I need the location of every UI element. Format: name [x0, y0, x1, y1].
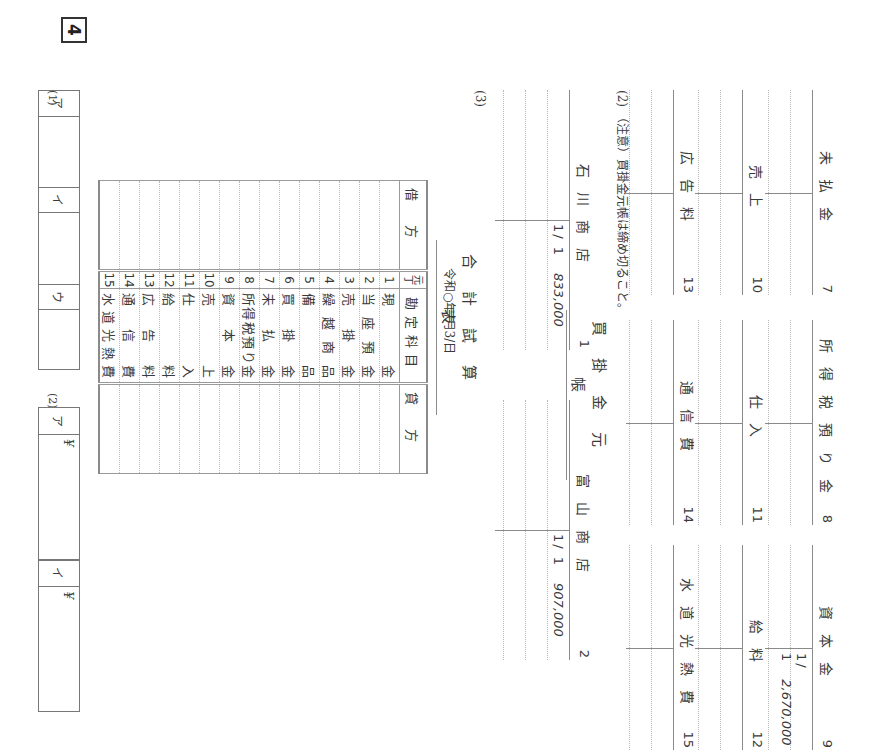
credit-cell[interactable]	[320, 383, 340, 473]
answer-field-a[interactable]: ¥	[39, 435, 79, 560]
header-ref: 元丁	[400, 271, 428, 289]
credit-cell[interactable]	[260, 383, 280, 473]
account-cell: 繰越商品	[320, 289, 340, 384]
trial-balance-date: 令和○年/月3/日	[442, 268, 459, 354]
header-debit: 借方	[400, 181, 428, 271]
debit-cell[interactable]	[120, 181, 140, 271]
credit-cell[interactable]	[120, 383, 140, 473]
ref-cell: 3	[340, 271, 360, 289]
t-account-num: 14	[681, 506, 696, 523]
t-account: 通信費14	[626, 320, 696, 525]
debit-cell[interactable]	[200, 181, 220, 271]
ledger-account-toyama: 富山商店2 1/ 1907,000	[492, 400, 592, 660]
t-account-num: 13	[681, 276, 696, 293]
table-row: 8所得税預り金	[240, 181, 260, 474]
answer-label-a: ア	[39, 91, 79, 117]
credit-cell[interactable]	[140, 383, 160, 473]
ref-cell: 10	[200, 271, 220, 289]
ledger-account-ishikawa: 石川商店1 1/ 1833,000	[492, 90, 592, 350]
t-account: 所得税預り金8	[765, 320, 835, 525]
answer-label-a: ア	[39, 408, 79, 435]
debit-cell[interactable]	[140, 181, 160, 271]
account-cell: 通信費	[120, 289, 140, 384]
answer-field-i[interactable]	[39, 213, 79, 284]
credit-cell[interactable]	[200, 383, 220, 473]
account-cell: 資本金	[220, 289, 240, 384]
debit-cell[interactable]	[240, 181, 260, 271]
account-cell: 未払金	[260, 289, 280, 384]
table-row: 12給料	[160, 181, 180, 474]
table-row: 4繰越商品	[320, 181, 340, 474]
credit-cell[interactable]	[180, 383, 200, 473]
debit-cell[interactable]	[340, 181, 360, 271]
debit-cell[interactable]	[320, 181, 340, 271]
ledger-account-name: 富山商店	[574, 400, 594, 660]
debit-cell[interactable]	[180, 181, 200, 271]
ref-cell: 1	[380, 271, 400, 289]
table-row: 10売上	[200, 181, 220, 474]
table-row: 3売掛金	[340, 181, 360, 474]
section2-label: (2)	[615, 90, 629, 107]
answer-field-u[interactable]	[39, 310, 79, 369]
credit-cell[interactable]	[360, 383, 380, 473]
t-account-name: 水道光熱費	[678, 545, 698, 750]
credit-cell[interactable]	[220, 383, 240, 473]
answer-label-i: イ	[39, 560, 79, 588]
trial-balance-table: 借方 元丁 勘定科目 貸方 1現金2当座預金3売掛金4繰越商品5備品6買掛金7未…	[98, 180, 428, 474]
t-account-num: 11	[750, 506, 765, 523]
debit-cell[interactable]	[220, 181, 240, 271]
credit-cell[interactable]	[99, 383, 120, 473]
header-credit: 貸方	[400, 383, 428, 473]
table-row: 5備品	[300, 181, 320, 474]
debit-cell[interactable]	[160, 181, 180, 271]
answer-field-a[interactable]	[39, 117, 79, 188]
debit-cell[interactable]	[300, 181, 320, 271]
debit-cell[interactable]	[260, 181, 280, 271]
section2-note-text: （注意）買掛金元帳は締め切ること。	[615, 111, 629, 315]
account-cell: 水道光熱費	[99, 289, 120, 384]
account-cell: 当座預金	[360, 289, 380, 384]
debit-cell[interactable]	[280, 181, 300, 271]
t-account-name: 売上	[747, 90, 767, 295]
t-account: 広告料13	[626, 90, 696, 295]
t-account-name: 給料	[747, 545, 767, 750]
credit-cell[interactable]	[240, 383, 260, 473]
debit-cell[interactable]	[380, 181, 400, 271]
ref-cell: 14	[120, 271, 140, 289]
ledger-account-num: 2	[577, 650, 592, 658]
t-account: 資本金91/ 12,670,000	[765, 545, 835, 750]
account-cell: 給料	[160, 289, 180, 384]
question-number-4: 4	[61, 17, 87, 43]
account-cell: 広告料	[140, 289, 160, 384]
t-account-num: 12	[750, 731, 765, 748]
account-cell: 売上	[200, 289, 220, 384]
ref-cell: 12	[160, 271, 180, 289]
account-cell: 現金	[380, 289, 400, 384]
credit-cell[interactable]	[160, 383, 180, 473]
answer-field-i[interactable]: ¥	[39, 587, 79, 711]
table-row: 1現金	[380, 181, 400, 474]
credit-cell[interactable]	[300, 383, 320, 473]
debit-cell[interactable]	[360, 181, 380, 271]
ledger-entry: 1/ 1907,000	[551, 534, 566, 637]
credit-cell[interactable]	[340, 383, 360, 473]
t-account: 水道光熱費15	[626, 545, 696, 750]
t-account: 未払金7	[765, 90, 835, 295]
credit-cell[interactable]	[280, 383, 300, 473]
table-row: 6買掛金	[280, 181, 300, 474]
debit-cell[interactable]	[99, 181, 120, 271]
answer-sheet-page: 未払金7所得税預り金8資本金91/ 12,670,000売上10仕入11給料12…	[0, 0, 877, 754]
t-account-name: 通信費	[678, 320, 698, 525]
ref-cell: 6	[280, 271, 300, 289]
section2-note: (2) （注意）買掛金元帳は締め切ること。	[615, 90, 632, 315]
table-row: 15水道光熱費	[99, 181, 120, 474]
ref-cell: 5	[300, 271, 320, 289]
account-cell: 備品	[300, 289, 320, 384]
account-cell: 所得税預り金	[240, 289, 260, 384]
account-cell: 売掛金	[340, 289, 360, 384]
ref-cell: 8	[240, 271, 260, 289]
table-row: 11仕入	[180, 181, 200, 474]
ledger-account-num: 1	[577, 340, 592, 348]
credit-cell[interactable]	[380, 383, 400, 473]
ref-cell: 4	[320, 271, 340, 289]
